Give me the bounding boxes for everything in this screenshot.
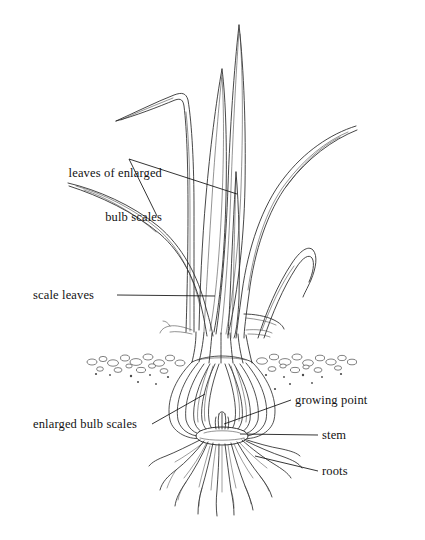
bulb-anatomy-figure: leaves of enlarged bulb scales scale lea…	[0, 0, 425, 540]
soil-surface-band	[87, 354, 357, 390]
label-growing-point: growing point	[295, 393, 367, 408]
leaf-small-right-droop	[244, 314, 284, 329]
label-line-1: leaves of enlarged	[37, 166, 162, 181]
label-line-2: bulb scales	[37, 210, 162, 225]
label-leaves-of-enlarged-bulb-scales: leaves of enlarged bulb scales	[37, 137, 162, 253]
bulb-group	[165, 356, 279, 445]
leaf-arching-right	[236, 126, 357, 338]
bulb-diagram-illustration	[0, 0, 425, 540]
roots-group	[149, 439, 302, 516]
label-scale-leaves: scale leaves	[33, 288, 94, 303]
leaf-hooked-right	[258, 248, 316, 338]
label-enlarged-bulb-scales: enlarged bulb scales	[33, 417, 137, 432]
label-roots: roots	[322, 464, 348, 479]
label-stem: stem	[322, 428, 346, 443]
scale-leaf-withered-left	[160, 321, 192, 334]
leaf-central-tall	[199, 69, 226, 332]
